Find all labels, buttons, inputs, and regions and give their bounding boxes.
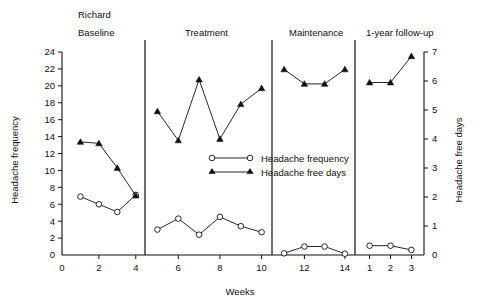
x-tick-label: 8 [217, 262, 222, 273]
y-tick-label: 12 [44, 148, 55, 159]
y-tick-label: 18 [44, 97, 55, 108]
frequency-point [238, 223, 244, 229]
series-headache-free-days [366, 53, 414, 85]
data-series [77, 53, 414, 256]
y-tick-label: 16 [44, 114, 55, 125]
free-days-line [80, 142, 135, 196]
y-axis-title: Headache frequency [9, 116, 20, 204]
free-days-point [77, 139, 83, 145]
frequency-line [284, 247, 345, 254]
y-tick-label: 2 [50, 232, 55, 243]
x-tick-label: 2 [388, 262, 393, 273]
x-tick-label: 12 [299, 262, 310, 273]
series-headache-frequency [367, 243, 414, 253]
phase-label-baseline: Baseline [78, 27, 114, 38]
free-days-point [217, 136, 223, 142]
frequency-point [322, 244, 328, 250]
series-headache-free-days [77, 139, 139, 198]
frequency-point [388, 243, 394, 249]
frequency-point [217, 214, 223, 220]
frequency-point [78, 194, 84, 200]
x-tick-label: 6 [176, 262, 181, 273]
frequency-point [281, 251, 287, 257]
frequency-point [155, 227, 161, 233]
free-days-line [370, 56, 412, 82]
free-days-point [408, 53, 414, 59]
frequency-point [302, 244, 308, 250]
y2-tick-label: 7 [432, 46, 437, 57]
y2-tick-label: 2 [432, 191, 437, 202]
phase-label-treatment: Treatment [185, 27, 228, 38]
chart-root: Richard Baseline Treatment Maintenance 1… [0, 0, 479, 301]
axis-titles: Headache frequency Headache free days We… [9, 116, 464, 297]
free-days-line [157, 80, 261, 141]
y-tick-label: 24 [44, 46, 55, 57]
legend-entry-free-days: Headache free days [209, 167, 346, 178]
frequency-line [157, 217, 261, 235]
y2-tick-label: 5 [432, 104, 437, 115]
free-days-point [342, 66, 348, 72]
frequency-point [259, 229, 265, 235]
frequency-line [80, 195, 135, 212]
y-tick-label: 14 [44, 131, 55, 142]
y-tick-label: 6 [50, 199, 55, 210]
y2-tick-label: 6 [432, 75, 437, 86]
frequency-point [176, 216, 182, 222]
phase-labels: Richard Baseline Treatment Maintenance 1… [78, 9, 434, 38]
y2-tick-label: 4 [432, 133, 437, 144]
series-headache-free-days [281, 66, 348, 86]
x-tick-label: 1 [367, 262, 372, 273]
phase-label-followup: 1-year follow-up [366, 27, 434, 38]
legend-label-frequency: Headache frequency [261, 153, 349, 164]
subject-title: Richard [78, 9, 111, 20]
y-tick-label: 10 [44, 165, 55, 176]
x-tick-label: 2 [96, 262, 101, 273]
series-headache-frequency [155, 214, 265, 237]
single-case-line-chart: Richard Baseline Treatment Maintenance 1… [0, 0, 479, 301]
y-tick-label: 22 [44, 63, 55, 74]
x-tick-label: 4 [133, 262, 138, 273]
x-tick-label: 3 [409, 262, 414, 273]
chart-legend: Headache frequency Headache free days [209, 153, 349, 178]
legend-entry-frequency: Headache frequency [209, 153, 349, 164]
x-origin-label: 0 [59, 262, 64, 273]
y-tick-label: 0 [50, 249, 55, 260]
series-headache-free-days [154, 76, 265, 142]
frequency-point [196, 232, 202, 238]
legend-label-free-days: Headache free days [261, 167, 346, 178]
x-tick-label: 10 [256, 262, 267, 273]
frequency-point [115, 209, 121, 215]
y-tick-label: 20 [44, 80, 55, 91]
series-headache-frequency [78, 192, 139, 215]
frequency-point [96, 202, 102, 208]
y-tick-label: 4 [50, 216, 55, 227]
frequency-point [409, 247, 415, 253]
phase-label-maintenance: Maintenance [289, 27, 343, 38]
phase-separators [145, 40, 355, 255]
y-tick-label: 8 [50, 182, 55, 193]
free-days-point [258, 85, 264, 91]
y2-axis-title: Headache free days [453, 117, 464, 202]
free-days-point [196, 76, 202, 82]
x-axis-title: Weeks [226, 286, 255, 297]
free-days-point [154, 108, 160, 114]
y2-tick-label: 3 [432, 162, 437, 173]
y2-tick-label: 1 [432, 220, 437, 231]
y2-tick-label: 0 [432, 249, 437, 260]
free-days-line [284, 69, 345, 84]
frequency-point [367, 243, 373, 249]
frequency-point [342, 251, 348, 257]
free-days-point [175, 137, 181, 143]
free-days-point [238, 101, 244, 107]
tick-labels: 0246810121416182022240123456702468101214… [44, 46, 437, 273]
free-days-point [281, 66, 287, 72]
x-tick-label: 14 [340, 262, 351, 273]
